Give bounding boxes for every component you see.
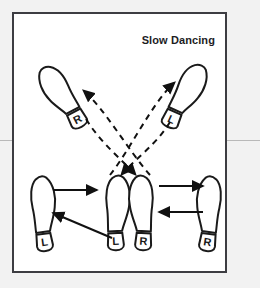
diagram-panel: Slow Dancing (12, 12, 227, 273)
page-root: Slow Dancing R (0, 0, 260, 288)
page-title: Slow Dancing (142, 34, 215, 46)
